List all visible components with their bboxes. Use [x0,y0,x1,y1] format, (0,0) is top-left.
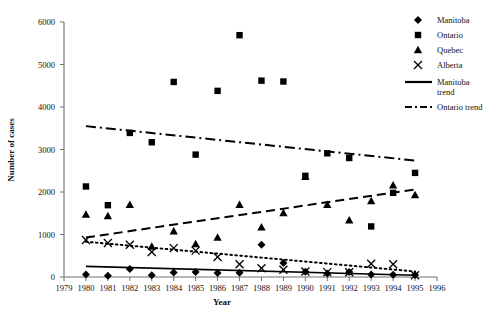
x-tick-label: 1994 [385,283,403,293]
data-point-ontario [192,151,198,157]
y-tick-label: 4000 [38,102,55,112]
data-point-ontario [324,150,330,156]
data-point-manitoba [148,271,156,279]
data-point-quebec [257,223,265,230]
data-point-ontario [346,155,352,161]
data-point-quebec [213,233,221,240]
data-point-manitoba [126,265,134,273]
data-point-quebec [235,201,243,208]
y-tick-label: 3000 [38,145,55,155]
data-point-manitoba [104,272,112,280]
chart-legend: ManitobaOntarioQuebecAlbertaManitobatren… [405,15,483,112]
y-tick-label: 6000 [38,17,55,27]
x-tick-label: 1986 [209,283,226,293]
legend-label-alberta: Alberta [437,60,463,70]
x-tick-label: 1983 [143,283,160,293]
x-axis-tick-marks [64,277,437,281]
data-point-quebec [126,201,134,208]
data-point-ontario [171,79,177,85]
x-axis-title: Year [213,297,231,307]
data-point-ontario [149,139,155,145]
data-point-quebec [170,227,178,234]
legend-label-ontario: Ontario [437,30,463,40]
x-tick-label: 1993 [363,283,380,293]
trend-lines-group [86,126,415,275]
data-point-alberta [170,244,178,252]
data-point-ontario [280,78,286,84]
data-point-ontario [105,202,111,208]
data-point-manitoba [257,241,265,249]
data-point-ontario [83,183,89,189]
data-point-quebec [389,181,397,188]
legend-label-manitoba: Manitoba [437,77,470,87]
data-point-quebec [191,240,199,247]
data-point-quebec [367,197,375,204]
x-axis-tick-labels: 1979198019811982198319841985198619871988… [56,283,446,293]
x-tick-label: 1981 [99,283,116,293]
data-point-ontario [214,88,220,94]
data-point-alberta [236,260,244,268]
y-tick-label: 5000 [38,60,55,70]
y-axis-tick-marks [60,22,64,277]
trend-line-quebec-trend [86,189,415,237]
legend-label-quebec: Quebec [437,45,463,55]
legend-label-manitoba: Manitoba [437,15,470,25]
x-tick-label: 1979 [56,283,73,293]
legend-marker-diamond [414,16,422,24]
data-point-manitoba [170,269,178,277]
data-point-quebec [82,210,90,217]
data-point-quebec [411,191,419,198]
scatter-chart-canvas: 0100020003000400050006000 19791980198119… [0,0,504,319]
y-axis-tick-labels: 0100020003000400050006000 [38,17,55,282]
x-tick-label: 1985 [187,283,204,293]
y-axis-title: Number of cases [6,118,16,182]
x-tick-label: 1989 [275,283,292,293]
trend-line-ontario-trend [86,126,415,160]
y-tick-label: 0 [51,272,55,282]
data-point-ontario [412,170,418,176]
chart-figure: 0100020003000400050006000 19791980198119… [0,0,504,319]
x-tick-label: 1980 [77,283,94,293]
x-tick-label: 1990 [297,283,314,293]
x-tick-label: 1984 [165,283,183,293]
x-tick-label: 1987 [231,283,248,293]
x-tick-label: 1995 [407,283,424,293]
data-point-ontario [258,77,264,83]
y-tick-label: 2000 [38,187,55,197]
data-point-alberta [389,260,397,268]
data-point-ontario [236,32,242,38]
legend-marker-triangle [414,46,422,53]
data-point-quebec [104,212,112,219]
data-point-ontario [368,223,374,229]
data-point-ontario [127,130,133,136]
x-tick-label: 1996 [429,283,446,293]
x-tick-label: 1991 [319,283,336,293]
x-tick-label: 1982 [121,283,138,293]
y-tick-label: 1000 [38,230,55,240]
x-tick-label: 1992 [341,283,358,293]
data-point-manitoba [323,269,331,277]
data-point-quebec [345,216,353,223]
legend-label-ontario-trend: Ontario trend [437,102,483,112]
legend-marker-square [415,32,421,38]
legend-marker-cross [414,61,422,69]
data-point-ontario [390,190,396,196]
legend-label-trend: trend [437,87,455,97]
x-tick-label: 1988 [253,283,270,293]
